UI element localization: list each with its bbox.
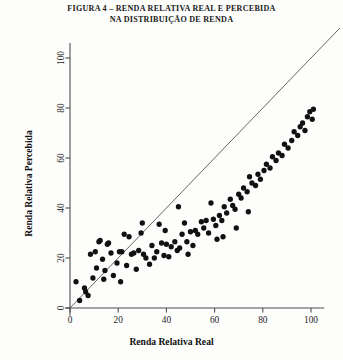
data-point	[253, 183, 258, 188]
data-point	[211, 217, 216, 222]
y-tick-label: 100	[56, 51, 66, 65]
data-point	[118, 279, 123, 284]
data-point	[97, 238, 102, 243]
data-point	[302, 128, 307, 133]
data-point	[149, 243, 154, 248]
data-point	[267, 165, 272, 170]
x-tick-label: 100	[304, 315, 318, 325]
data-point	[255, 172, 260, 177]
x-axis-title: Renda Relativa Real	[0, 336, 343, 347]
data-point	[300, 120, 305, 125]
data-point	[199, 219, 204, 224]
x-tick-label: 40	[162, 315, 172, 325]
data-point	[114, 260, 119, 265]
data-point	[152, 255, 157, 260]
x-tick-label: 20	[114, 315, 124, 325]
data-point	[208, 200, 213, 205]
data-point	[101, 277, 106, 282]
data-point	[161, 253, 166, 258]
data-point	[188, 229, 193, 234]
data-points-group	[73, 107, 316, 304]
data-point	[238, 195, 243, 200]
plot-area: 020406080100020406080100	[0, 0, 343, 360]
data-point	[138, 230, 143, 235]
data-point	[195, 232, 200, 237]
data-point	[305, 114, 310, 119]
data-point	[258, 177, 263, 182]
identity-line-group	[70, 28, 340, 308]
data-point	[143, 255, 148, 260]
data-point	[176, 204, 181, 209]
data-point	[136, 248, 141, 253]
data-point	[159, 240, 164, 245]
data-point	[244, 189, 249, 194]
data-point	[185, 252, 190, 257]
identity-line	[70, 28, 340, 308]
scatter-plot-svg: 020406080100020406080100	[0, 0, 343, 360]
y-tick-label: 60	[56, 153, 66, 163]
data-point	[213, 223, 218, 228]
data-point	[73, 279, 78, 284]
data-point	[179, 232, 184, 237]
x-tick-label: 0	[68, 315, 73, 325]
y-tick-label: 20	[56, 253, 66, 263]
data-point	[204, 218, 209, 223]
data-point	[295, 133, 300, 138]
data-point	[154, 249, 159, 254]
y-tick-label: 40	[56, 203, 66, 213]
data-point	[279, 153, 284, 158]
data-point	[220, 234, 225, 239]
data-point	[140, 220, 145, 225]
data-point	[124, 263, 129, 268]
y-tick-label: 0	[56, 305, 66, 310]
figure-container: FIGURA 4 – RENDA RELATIVA REAL E PERCEBI…	[0, 0, 343, 360]
data-point	[214, 237, 219, 242]
data-point	[88, 252, 93, 257]
data-point	[131, 250, 136, 255]
data-point	[147, 262, 152, 267]
data-point	[219, 218, 224, 223]
data-point	[177, 245, 182, 250]
data-point	[224, 210, 229, 215]
x-tick-label: 80	[258, 315, 268, 325]
data-point	[90, 275, 95, 280]
y-axis-title: Renda Relativa Percebida	[23, 94, 34, 274]
data-point	[184, 239, 189, 244]
data-point	[94, 265, 99, 270]
data-point	[285, 145, 290, 150]
data-point	[108, 250, 113, 255]
data-point	[217, 213, 222, 218]
data-point	[119, 249, 124, 254]
data-point	[169, 244, 174, 249]
data-point	[157, 222, 162, 227]
y-tick-label: 80	[56, 103, 66, 113]
data-point	[232, 207, 237, 212]
x-tick-label: 60	[210, 315, 220, 325]
data-point	[122, 232, 127, 237]
data-point	[261, 168, 266, 173]
data-point	[201, 225, 206, 230]
data-point	[222, 204, 227, 209]
data-point	[102, 268, 107, 273]
data-point	[166, 254, 171, 259]
data-point	[190, 243, 195, 248]
data-point	[77, 298, 82, 303]
data-point	[311, 107, 316, 112]
data-point	[93, 249, 98, 254]
data-point	[126, 234, 131, 239]
data-point	[111, 273, 116, 278]
data-point	[246, 209, 251, 214]
data-point	[172, 239, 177, 244]
data-point	[100, 257, 105, 262]
data-point	[85, 293, 90, 298]
data-point	[182, 220, 187, 225]
data-point	[106, 240, 111, 245]
data-point	[310, 117, 315, 122]
data-point	[273, 158, 278, 163]
data-point	[163, 228, 168, 233]
data-point	[289, 138, 294, 143]
data-point	[247, 174, 252, 179]
data-point	[206, 230, 211, 235]
data-point	[228, 197, 233, 202]
data-point	[134, 267, 139, 272]
